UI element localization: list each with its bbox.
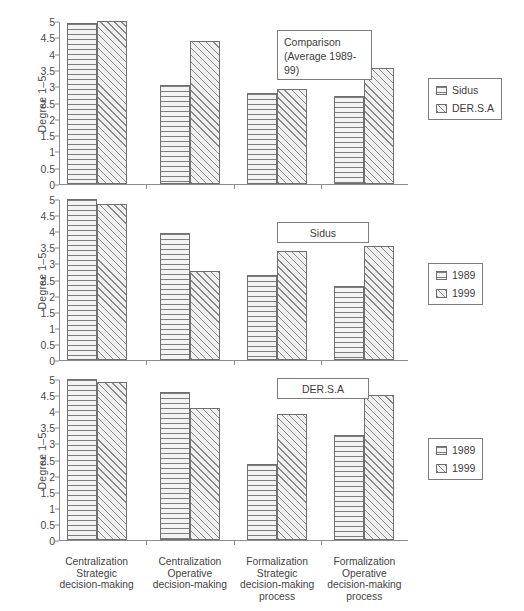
y-tick-label: 0.5 (40, 339, 55, 351)
bar-1989 (334, 286, 364, 360)
x-category-label-line: Operative (140, 568, 239, 580)
annotation-line: Comparison (284, 35, 365, 49)
diagonal-hatch-swatch-icon (436, 464, 447, 473)
y-axis-line (59, 22, 60, 185)
x-tick-mark (234, 361, 235, 365)
panel-annotation-box: Sidus (277, 222, 369, 243)
legend-label: 1999 (452, 462, 475, 474)
x-category-label-line: Strategic (228, 568, 327, 580)
y-axis-line (59, 200, 60, 361)
bar-1999 (190, 271, 220, 360)
chart-panel-3: Degree 1–500.511.522.533.544.55DER.S.A19… (0, 376, 524, 556)
y-tick-label: 0.5 (40, 163, 55, 175)
y-tick-label: 1.5 (40, 130, 55, 142)
bar-1999 (364, 246, 394, 360)
plot-area (59, 380, 408, 541)
x-tick-mark (321, 185, 322, 189)
x-category-label-line: Operative (315, 568, 414, 580)
legend: 19891999 (428, 438, 483, 480)
legend-label: Sidus (452, 84, 478, 96)
bar-group (334, 379, 394, 540)
bar-sidus (67, 23, 97, 184)
y-axis-ticks: 00.511.522.533.544.55 (21, 376, 55, 556)
x-tick-mark (234, 185, 235, 189)
y-axis-ticks: 00.511.522.533.544.55 (21, 0, 55, 196)
x-category-label: CentralizationOperativedecision-making (140, 556, 239, 591)
bar-sidus (160, 85, 190, 184)
x-category-label: CentralizationStrategicdecision-making (47, 556, 146, 591)
x-category-label-line: Centralization (47, 556, 146, 568)
x-tick-mark (146, 185, 147, 189)
bar-group (67, 379, 127, 540)
y-axis-line (59, 380, 60, 541)
bar-der-s-a (190, 41, 220, 184)
bar-der-s-a (277, 89, 307, 184)
x-category-label-line: process (315, 591, 414, 603)
bar-group (160, 21, 220, 184)
bar-sidus (247, 93, 277, 184)
y-tick-label: 2.5 (40, 455, 55, 467)
bar-1989 (67, 199, 97, 360)
y-tick-label: 4.5 (40, 210, 55, 222)
x-tick-mark (321, 541, 322, 545)
panel-annotation-box: DER.S.A (277, 378, 369, 399)
annotation-line: 99) (284, 63, 365, 77)
x-tick-mark (146, 541, 147, 545)
panel-annotation-text: Comparison(Average 1989-99) (284, 35, 365, 77)
x-category-label-line: Formalization (315, 556, 414, 568)
legend-item[interactable]: DER.S.A (436, 102, 494, 114)
legend-label: DER.S.A (452, 102, 494, 114)
x-category-label-line: process (228, 591, 327, 603)
legend: SidusDER.S.A (428, 78, 502, 120)
x-axis-category-labels: CentralizationStrategicdecision-makingCe… (0, 556, 524, 611)
bar-1999 (277, 414, 307, 540)
bar-1999 (97, 204, 127, 360)
bar-1999 (277, 251, 307, 360)
y-axis-ticks: 00.511.522.533.544.55 (21, 196, 55, 376)
y-tick-label: 2.5 (40, 98, 55, 110)
bar-group (67, 21, 127, 184)
y-tick-label: 1.5 (40, 487, 55, 499)
legend-item[interactable]: 1989 (436, 269, 475, 281)
bar-1989 (67, 379, 97, 540)
y-tick-label: 3.5 (40, 422, 55, 434)
x-category-label-line: decision-making (315, 579, 414, 591)
horizontal-hatch-swatch-icon (436, 446, 447, 455)
x-category-label-line: Strategic (47, 568, 146, 580)
x-category-label-line: Centralization (140, 556, 239, 568)
bar-group (67, 199, 127, 360)
legend-item[interactable]: Sidus (436, 84, 494, 96)
x-category-label-line: decision-making (140, 579, 239, 591)
bar-der-s-a (97, 21, 127, 184)
y-tick-label: 3.5 (40, 242, 55, 254)
diagonal-hatch-swatch-icon (436, 289, 447, 298)
x-category-label: FormalizationOperativedecision-makingpro… (315, 556, 414, 602)
panel-annotation-box: Comparison(Average 1989-99) (277, 30, 372, 80)
legend-item[interactable]: 1999 (436, 287, 475, 299)
annotation-line: (Average 1989- (284, 49, 365, 63)
legend-item[interactable]: 1999 (436, 462, 475, 474)
bar-1999 (97, 382, 127, 540)
y-tick-label: 3.5 (40, 65, 55, 77)
figure-three-panel-bar-charts: Degree 1–500.511.522.533.544.55Compariso… (0, 0, 524, 611)
x-category-label: FormalizationStrategicdecision-makingpro… (228, 556, 327, 602)
legend-label: 1989 (452, 444, 475, 456)
bar-group (247, 379, 307, 540)
bar-1989 (160, 392, 190, 540)
y-tick-label: 2.5 (40, 275, 55, 287)
bar-1989 (247, 464, 277, 540)
bar-1989 (247, 275, 277, 360)
legend-label: 1999 (452, 287, 475, 299)
legend: 19891999 (428, 263, 483, 305)
x-category-label-line: decision-making (47, 579, 146, 591)
x-tick-mark (321, 361, 322, 365)
x-category-label-line: decision-making (228, 579, 327, 591)
x-category-label-line: Formalization (228, 556, 327, 568)
y-tick-label: 4.5 (40, 390, 55, 402)
bar-group (160, 199, 220, 360)
y-tick-label: 0.5 (40, 519, 55, 531)
annotation-line: Sidus (310, 226, 336, 240)
x-tick-mark (146, 361, 147, 365)
panel-annotation-text: Sidus (310, 226, 336, 240)
legend-item[interactable]: 1989 (436, 444, 475, 456)
